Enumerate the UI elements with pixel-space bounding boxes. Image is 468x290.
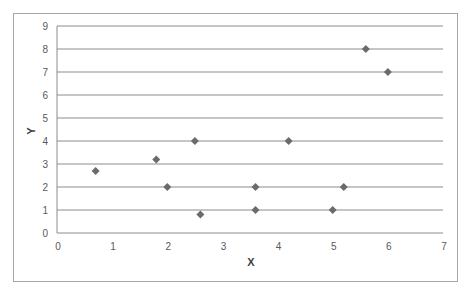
- data-point-marker: [329, 206, 337, 214]
- x-tick-label: 4: [276, 241, 282, 252]
- y-tick-label: 7: [42, 67, 48, 78]
- y-tick-label: 0: [42, 228, 48, 239]
- scatter-plot: 0123456789 01234567 X Y: [0, 0, 468, 290]
- data-points: [92, 45, 392, 219]
- y-tick-label: 5: [42, 113, 48, 124]
- y-tick-label: 8: [42, 44, 48, 55]
- x-tick-label: 1: [110, 241, 116, 252]
- data-point-marker: [340, 183, 348, 191]
- data-point-marker: [384, 68, 392, 76]
- data-point-marker: [252, 183, 260, 191]
- data-point-marker: [362, 45, 370, 53]
- data-point-marker: [252, 206, 260, 214]
- data-point-marker: [92, 167, 100, 175]
- data-point-marker: [191, 137, 199, 145]
- x-axis-title: X: [247, 256, 255, 268]
- data-point-marker: [196, 211, 204, 219]
- data-point-marker: [163, 183, 171, 191]
- y-tick-label: 2: [42, 182, 48, 193]
- y-tick-label: 1: [42, 205, 48, 216]
- gridlines: [57, 26, 443, 233]
- x-tick-label: 2: [166, 241, 172, 252]
- x-tick-label: 0: [55, 241, 61, 252]
- y-axis-ticks: 0123456789: [42, 21, 48, 239]
- x-tick-label: 6: [386, 241, 392, 252]
- data-point-marker: [285, 137, 293, 145]
- x-tick-label: 7: [441, 241, 447, 252]
- y-tick-label: 9: [42, 21, 48, 32]
- x-tick-label: 5: [331, 241, 337, 252]
- x-tick-label: 3: [221, 241, 227, 252]
- y-tick-label: 6: [42, 90, 48, 101]
- y-tick-label: 4: [42, 136, 48, 147]
- x-axis-ticks: 01234567: [55, 241, 447, 252]
- y-tick-label: 3: [42, 159, 48, 170]
- y-axis-title: Y: [25, 127, 37, 135]
- data-point-marker: [152, 155, 160, 163]
